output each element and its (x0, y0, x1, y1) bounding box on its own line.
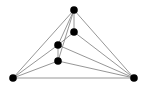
edges-group (13, 10, 134, 78)
node-bottom-right (130, 74, 138, 82)
node-lower-inner (54, 57, 62, 65)
nodes-group (9, 6, 138, 82)
graph-svg (0, 0, 147, 86)
edge-top-bottom-right (74, 10, 134, 78)
node-top (70, 6, 78, 14)
edge-top-lower-inner (58, 10, 74, 61)
edge-middle-left-inner-bottom-right (58, 45, 134, 78)
node-middle-left-inner (54, 41, 62, 49)
edge-top-bottom-left (13, 10, 74, 78)
edge-lower-inner-bottom-left (13, 61, 58, 78)
edge-middle-left-inner-bottom-left (13, 45, 58, 78)
node-upper-right-inner (70, 28, 78, 36)
node-bottom-left (9, 74, 17, 82)
graph-diagram (0, 0, 147, 86)
edge-top-middle-left-inner (58, 10, 74, 45)
